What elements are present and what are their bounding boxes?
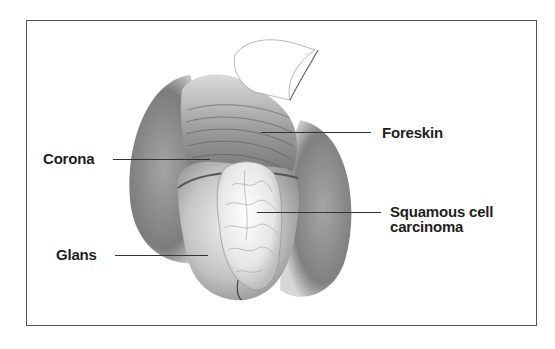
corona-leader-line	[113, 159, 210, 160]
label-squamous-cell-line1: Squamous cell	[390, 204, 493, 219]
glans-leader-line	[115, 255, 208, 256]
anatomy-illustration	[0, 0, 555, 349]
label-squamous-cell-line2: carcinoma	[390, 219, 463, 234]
label-corona: Corona	[43, 151, 94, 166]
foreskin-leader-line	[261, 132, 371, 133]
label-foreskin: Foreskin	[382, 125, 443, 140]
squamous-leader-line	[257, 212, 381, 213]
label-glans: Glans	[56, 247, 97, 262]
